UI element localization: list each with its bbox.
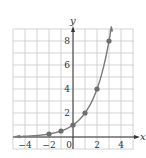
curve-left-arrow-icon bbox=[15, 135, 20, 139]
y-axis-label: y bbox=[69, 15, 76, 26]
y-tick-label: 4 bbox=[64, 84, 70, 94]
y-tick-label: 6 bbox=[64, 60, 70, 70]
x-tick-label: 4 bbox=[118, 140, 124, 150]
data-point bbox=[70, 122, 75, 127]
curve-top-arrow-icon bbox=[110, 25, 114, 31]
data-point bbox=[82, 110, 87, 115]
x-tick-label: −2 bbox=[42, 140, 55, 150]
data-point bbox=[106, 38, 111, 43]
x-tick-label: 0 bbox=[66, 140, 72, 150]
data-point bbox=[46, 131, 51, 136]
axes: xy bbox=[13, 15, 146, 149]
exponential-graph: xy −4−20242468 bbox=[0, 0, 146, 158]
data-point bbox=[58, 128, 63, 133]
x-tick-label: −4 bbox=[18, 140, 32, 150]
x-tick-label: 2 bbox=[94, 140, 100, 150]
y-tick-label: 2 bbox=[64, 108, 70, 118]
data-point bbox=[94, 86, 99, 91]
y-tick-label: 8 bbox=[64, 36, 70, 46]
x-axis-label: x bbox=[140, 131, 146, 142]
